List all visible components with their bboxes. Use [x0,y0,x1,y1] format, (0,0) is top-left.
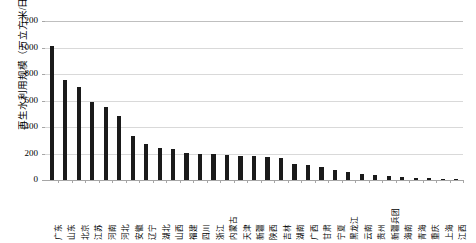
x-tick-label: 吉林 [284,224,292,240]
x-tick-label: 北京 [82,224,90,240]
bar [333,21,337,180]
bar [104,21,108,180]
bar [319,21,323,180]
bar [144,21,148,180]
bar [238,21,242,180]
x-tick-label: 辽宁 [149,224,157,240]
bar-fill [198,154,202,181]
bar-fill [63,80,67,180]
bar-fill [131,136,135,180]
bar [77,21,81,180]
bar [252,21,256,180]
x-tick-label: 河南 [109,224,117,240]
bar [90,21,94,180]
bar [265,21,269,180]
x-tick-label: 广东 [55,224,63,240]
bar [279,21,283,180]
bar-fill [279,158,283,180]
bar-fill [252,156,256,180]
x-tick-label: 四川 [203,224,211,240]
x-tick-label: 甘肃 [324,224,332,240]
bar-fill [454,179,458,180]
bar-fill [90,102,94,180]
x-tick-label: 广西 [311,224,319,240]
bar-chart: 再生水利用规模（万立方米/日） 020040060080010001200 广东… [0,0,476,243]
bar-fill [171,149,175,180]
bar-fill [225,155,229,180]
y-tick-label: 800 [0,69,38,78]
bar [360,21,364,180]
x-tick-label: 湖北 [163,224,171,240]
x-tick-label: 上海 [446,224,454,240]
bar-fill [387,176,391,180]
bar-fill [414,178,418,180]
bar [400,21,404,180]
x-tick-label: 山西 [176,224,184,240]
bar [292,21,296,180]
bar-fill [319,167,323,180]
x-tick-label: 贵州 [378,224,386,240]
bar-fill [306,165,310,180]
bar-fill [441,179,445,180]
bar [158,21,162,180]
bar-fill [400,177,404,180]
bar-fill [360,174,364,180]
bar [50,21,54,180]
bar-fill [346,172,350,180]
y-axis-ticks: 020040060080010001200 [0,0,45,243]
bar [414,21,418,180]
bar [387,21,391,180]
x-tick-label: 青海 [419,224,427,240]
bar [131,21,135,180]
x-tick-label: 安徽 [136,224,144,240]
y-tick-label: 0 [0,175,38,184]
bar [454,21,458,180]
y-tick-label: 200 [0,149,38,158]
bar-fill [211,154,215,180]
x-tick-label: 云南 [365,224,373,240]
x-tick-label: 新疆 [257,224,265,240]
bar-fill [333,170,337,180]
x-axis-line [45,180,463,181]
bar [184,21,188,180]
bar-series [45,21,463,180]
x-tick-label: 河北 [122,224,130,240]
bar [441,21,445,180]
bar-fill [292,164,296,180]
bar-fill [77,87,81,180]
bar [225,21,229,180]
bar-fill [265,157,269,180]
x-tick-label: 黑龙江 [351,216,359,240]
bar-fill [373,175,377,180]
x-tick-label: 陕西 [270,224,278,240]
bar [63,21,67,180]
x-tick-label: 山东 [68,224,76,240]
y-tick-label: 400 [0,122,38,131]
bar [306,21,310,180]
x-tick-mark [463,180,464,183]
bar [117,21,121,180]
x-axis-labels: 广东山东北京江苏河南河北安徽辽宁湖北山西福建四川浙江内蒙古天津新疆陕西吉林湖南广… [45,182,463,243]
bar-fill [144,144,148,180]
x-tick-label: 天津 [244,224,252,240]
x-tick-label: 浙江 [217,224,225,240]
x-tick-label: 湖南 [297,224,305,240]
bar [171,21,175,180]
bar-fill [238,156,242,181]
bar-fill [104,107,108,180]
bar-fill [158,148,162,180]
y-tick-label: 1200 [0,16,38,25]
bar-fill [184,153,188,180]
bar [198,21,202,180]
x-tick-label: 海南 [405,224,413,240]
bar [427,21,431,180]
x-tick-label: 福建 [190,224,198,240]
y-tick-label: 600 [0,96,38,105]
x-tick-label: 重庆 [432,224,440,240]
bar [373,21,377,180]
bar [346,21,350,180]
bar-fill [117,116,121,180]
x-tick-label: 江苏 [95,224,103,240]
bar-fill [427,178,431,180]
bar [211,21,215,180]
